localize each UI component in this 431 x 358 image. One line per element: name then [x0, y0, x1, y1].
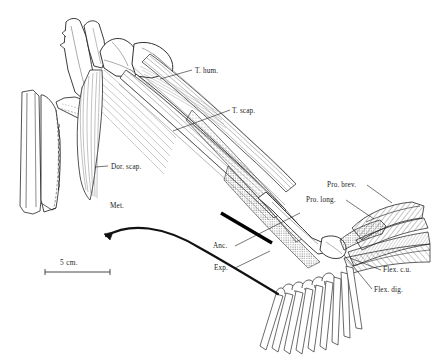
label-t-hum: T. hum.	[195, 68, 218, 75]
label-flex-dig: Flex. dig.	[374, 287, 403, 294]
leader-exp	[235, 251, 270, 268]
label-anc: Anc.	[213, 243, 227, 250]
sternum-plate	[41, 95, 60, 212]
label-flex-cu: Flex. c.u.	[383, 267, 411, 274]
label-pro-long: Pro. long.	[306, 197, 336, 204]
label-pro-brev: Pro. brev.	[327, 182, 356, 189]
label-t-scap: T. scap.	[232, 108, 255, 115]
scale-bar-label: 5 cm.	[60, 258, 78, 267]
triceps-humeralis-muscle	[142, 54, 296, 192]
vertebral-column	[20, 90, 41, 214]
scale-bar	[45, 269, 110, 275]
leader-dor-scap	[95, 166, 108, 167]
wing-finger-rays	[260, 266, 362, 354]
figure-canvas: T. hum. T. scap. Dor. scap. Met. Pro. br…	[0, 0, 431, 358]
metacarpal-arc	[104, 228, 278, 294]
anatomical-illustration	[0, 0, 431, 358]
leader-pro-long	[346, 200, 374, 219]
label-dor-scap: Dor. scap.	[111, 164, 141, 171]
label-met: Met.	[110, 203, 124, 210]
extensor-muscle	[224, 166, 320, 268]
leader-pro-brev	[367, 185, 392, 203]
label-exp: Exp.	[214, 265, 228, 272]
